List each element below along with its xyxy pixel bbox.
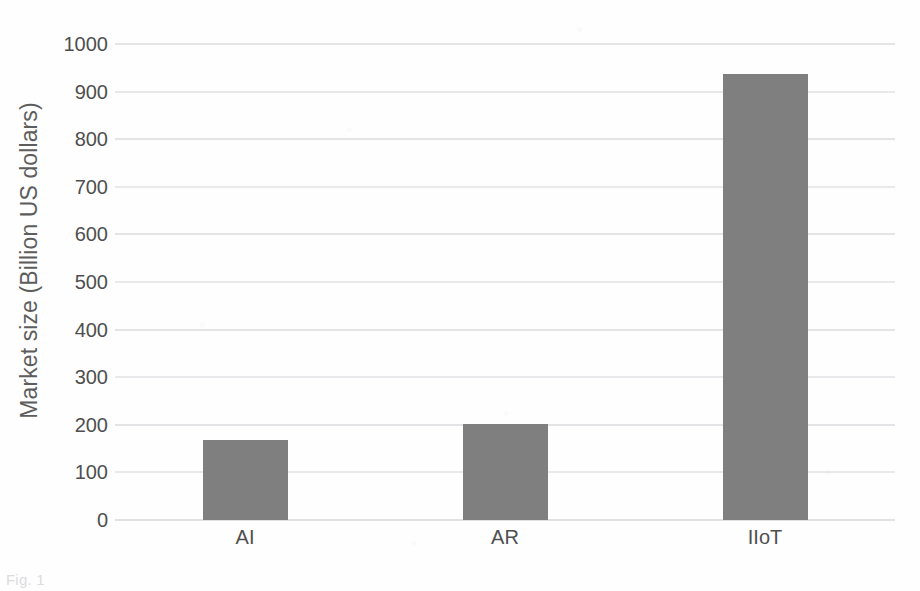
y-axis-tick-label: 100 [75,461,108,484]
figure-caption: Fig. 1 [6,571,45,588]
y-axis-title-text: Market size (Billion US dollars) [16,102,43,418]
bar-ai[interactable] [203,440,288,520]
y-axis-tick-label: 400 [75,318,108,341]
bars-layer [115,44,895,520]
figure-root: Market size (Billion US dollars) 1000900… [0,0,920,591]
y-axis-tick-label: 700 [75,175,108,198]
y-axis-tick-label: 300 [75,366,108,389]
x-axis-tick-label-ai: AI [236,526,255,549]
y-axis-tick-labels: 10009008007006005004003002001000 [46,0,112,591]
plot-area [115,44,895,520]
y-axis-tick-label: 800 [75,128,108,151]
y-axis-tick-label: 1000 [64,33,109,56]
y-axis-tick-label: 200 [75,413,108,436]
y-axis-tick-label: 0 [97,509,108,532]
y-axis-tick-label: 600 [75,223,108,246]
x-axis-tick-label-ar: AR [491,526,519,549]
y-axis-tick-label: 500 [75,271,108,294]
bar-ar[interactable] [463,424,548,520]
bar-iiot[interactable] [723,74,808,520]
y-axis-tick-label: 900 [75,80,108,103]
x-axis-tick-labels: AIARIIoT [115,526,895,560]
x-axis-tick-label-iiot: IIoT [748,526,782,549]
